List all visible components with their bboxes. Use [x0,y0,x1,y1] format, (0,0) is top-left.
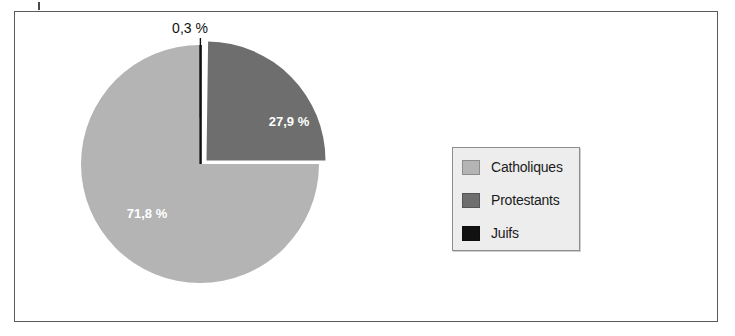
legend-label-catholiques: Catholiques [491,159,563,175]
legend-swatch-protestants [462,193,480,208]
pie-slice-protestants-group[interactable] [207,42,326,161]
legend-label-protestants: Protestants [491,192,560,208]
pie-chart-plot-area: 0,3 % 27,9 % 71,8 % Catholiques Protesta… [0,0,735,336]
legend-label-juifs: Juifs [491,225,519,241]
pie-label-protestants: 27,9 % [269,114,310,129]
legend-swatch-catholiques [462,160,480,175]
legend-swatch-juifs [462,226,480,241]
legend-item-catholiques[interactable]: Catholiques [462,156,563,178]
pie-chart: 0,3 % 27,9 % 71,8 % [0,0,735,336]
legend-item-juifs[interactable]: Juifs [462,222,519,244]
pie-slice-protestants[interactable] [207,42,326,161]
figure-container: 0,3 % 27,9 % 71,8 % Catholiques Protesta… [0,0,735,336]
chart-legend: Catholiques Protestants Juifs [452,147,580,251]
legend-item-protestants[interactable]: Protestants [462,189,560,211]
pie-label-catholiques: 71,8 % [127,206,168,221]
pie-label-juifs: 0,3 % [172,20,208,36]
